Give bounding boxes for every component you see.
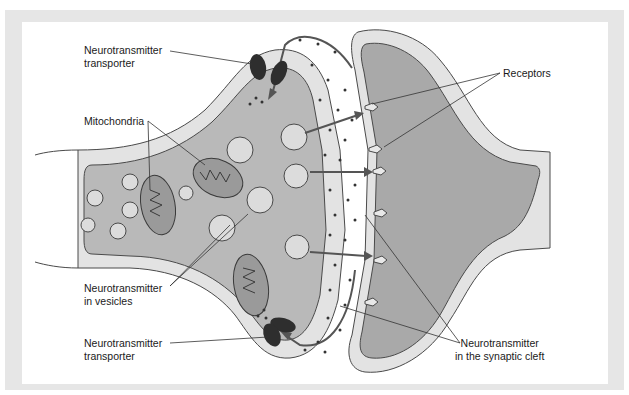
- label-synaptic-cleft: Neurotransmitter in the synaptic cleft: [455, 337, 544, 363]
- label-vesicles: Neurotransmitter in vesicles: [84, 282, 162, 308]
- label-transporter-top: Neurotransmitter transporter: [84, 44, 162, 70]
- axon-terminal: [35, 50, 345, 359]
- dendrite: [349, 30, 550, 372]
- label-transporter-bottom: Neurotransmitter transporter: [84, 337, 162, 363]
- label-mitochondria: Mitochondria: [84, 115, 144, 128]
- label-receptors: Receptors: [503, 67, 551, 80]
